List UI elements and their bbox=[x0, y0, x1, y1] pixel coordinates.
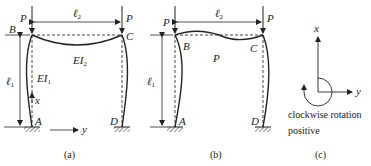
axis-x-label-c: x bbox=[313, 22, 319, 34]
span-label-b: ℓ2 bbox=[215, 7, 224, 21]
caption-a: (a) bbox=[64, 149, 75, 161]
caption-b: (b) bbox=[210, 149, 222, 161]
frame-buckling-diagram: P P ℓ2 ℓ1 EI2 EI1 x y B C A D (a) bbox=[0, 0, 371, 166]
node-a-label-a: A bbox=[34, 115, 42, 127]
axis-y-label-c: y bbox=[355, 85, 361, 97]
node-b-label-b: B bbox=[183, 40, 190, 52]
caption-c: (c) bbox=[315, 149, 326, 161]
fixed-support-b-d bbox=[255, 127, 271, 132]
rotation-note-line1: clockwise rotation bbox=[288, 109, 362, 120]
node-d-label-a: D bbox=[109, 115, 118, 127]
span-label-a: ℓ2 bbox=[73, 7, 82, 21]
load-label-left-a: P bbox=[19, 12, 27, 24]
load-label-right-a: P bbox=[125, 12, 133, 24]
fixed-support-d bbox=[114, 127, 130, 132]
panel-b: P P ℓ2 ℓ1 P B C A D (b) bbox=[147, 6, 274, 161]
height-label-a: ℓ1 bbox=[6, 75, 15, 89]
fixed-support-b-a bbox=[167, 127, 183, 132]
beam-stiffness-label: EI2 bbox=[72, 54, 87, 68]
node-c-label-b: C bbox=[250, 42, 258, 54]
panel-a: P P ℓ2 ℓ1 EI2 EI1 x y B C A D (a) bbox=[4, 6, 134, 161]
load-label-right-b: P bbox=[266, 12, 274, 24]
node-c-label-a: C bbox=[126, 30, 134, 42]
local-y-label: y bbox=[81, 123, 87, 135]
load-label-left-b: P bbox=[162, 16, 170, 28]
center-label-b: P bbox=[212, 52, 220, 64]
fixed-support-a bbox=[24, 127, 40, 132]
rotation-note-line2: positive bbox=[288, 125, 320, 136]
local-x-label: x bbox=[34, 94, 40, 106]
node-a-label-b: A bbox=[178, 115, 186, 127]
node-d-label-b: D bbox=[250, 115, 259, 127]
node-b-label-a: B bbox=[9, 23, 16, 35]
height-label-b: ℓ1 bbox=[147, 75, 156, 89]
panel-c: x y clockwise rotation positive (c) bbox=[288, 22, 362, 161]
column-stiffness-label: EI1 bbox=[36, 72, 51, 86]
